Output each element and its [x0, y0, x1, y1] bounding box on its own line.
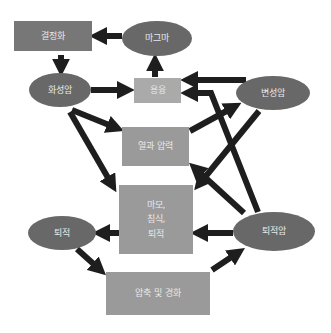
node-igneous-rock: 화성암: [29, 73, 91, 107]
node-weathering-line-3: 퇴적: [148, 227, 164, 241]
arrow-sedimentary-to-heat-pressure: [197, 170, 244, 213]
node-igneous-rock-label: 화성암: [48, 83, 72, 97]
node-magma-label: 마그마: [145, 31, 169, 45]
node-weathering: 마모, 침식, 퇴적: [119, 185, 193, 254]
node-sediment: 퇴적: [28, 216, 96, 250]
node-compaction: 압축 및 경화: [106, 272, 210, 315]
arrow-sediment-to-compaction: [77, 249, 98, 268]
node-weathering-line-2: 침식,: [147, 212, 166, 226]
node-weathering-line-1: 마모,: [147, 198, 166, 212]
node-compaction-label: 압축 및 경화: [135, 286, 181, 300]
node-sedimentary-rock-label: 퇴적암: [262, 224, 286, 238]
arrow-compaction-to-sedimentary: [212, 254, 236, 270]
node-metamorphic-rock: 변성암: [236, 76, 310, 110]
node-metamorphic-rock-label: 변성암: [261, 86, 285, 100]
node-sediment-label: 퇴적: [54, 226, 70, 240]
node-heat-pressure-label: 열과 압력: [138, 139, 173, 153]
node-heat-pressure: 열과 압력: [122, 127, 189, 166]
node-melting: 용융: [134, 78, 181, 103]
node-crystallization: 결정화: [14, 21, 92, 51]
node-crystallization-label: 결정화: [41, 29, 65, 43]
node-melting-label: 용융: [150, 83, 166, 97]
node-sedimentary-rock: 퇴적암: [233, 212, 315, 251]
node-magma: 마그마: [122, 21, 192, 56]
